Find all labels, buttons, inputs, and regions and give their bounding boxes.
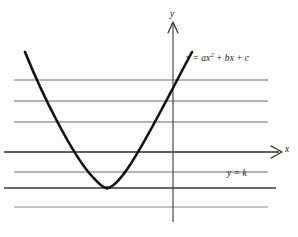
graph-canvas <box>0 0 298 237</box>
y-axis-label: y <box>170 10 174 20</box>
parabola-equation-label: y = ax2 + bx + c <box>186 52 249 64</box>
horizontal-line-equation-label: y = k <box>227 169 247 179</box>
k-label-k: k <box>243 168 248 178</box>
x-axis-group <box>4 146 282 158</box>
k-label-y: y <box>227 168 232 178</box>
x-axis-label: x <box>285 145 289 155</box>
parabola-vertex-point <box>105 186 109 190</box>
math-figure-parabola-horizontal-lines: y x y = ax2 + bx + c y = k <box>0 0 298 237</box>
equation-const-c: c <box>245 53 249 63</box>
parabola-curve <box>25 52 192 188</box>
equation-equals-1: = <box>193 53 199 63</box>
